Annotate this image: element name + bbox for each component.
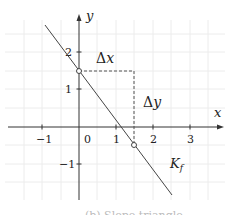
x-tick-label: 1 [113,133,120,146]
x-axis-label: x [214,105,222,120]
delta-y-label: Δy [143,94,162,110]
x-tick-label: 3 [187,133,194,146]
y-intercept-point [77,69,82,74]
figure-caption: (b) Slope triangle [85,209,183,215]
delta-x-label: Δx [96,50,114,66]
line-label-kf: Kf [169,156,185,173]
y-tick-label: −1 [59,158,75,171]
x-axis-arrow-icon [217,125,224,130]
y-axis-arrow-icon [77,14,82,21]
grid [5,20,225,200]
x-tick-label: −1 [36,133,52,146]
second-point [132,143,137,148]
y-axis-label: y [85,8,94,23]
y-tick-label: 1 [65,83,72,96]
x-tick-label: 0 [84,133,91,146]
x-tick-label: 2 [150,133,157,146]
coordinate-diagram: x y −1 0 1 2 3 2 1 −1 Δx Δy Kf (b) Slope… [0,0,233,215]
